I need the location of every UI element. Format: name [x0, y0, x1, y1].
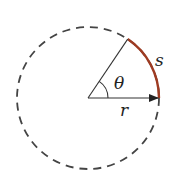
angle-arc-icon — [99, 81, 108, 98]
arc-length-diagram: θ s r — [0, 0, 172, 179]
theta-label: θ — [114, 73, 124, 93]
diagram-canvas: θ s r — [0, 0, 172, 179]
arc-s-label: s — [155, 50, 164, 70]
radius-r-label: r — [120, 100, 129, 120]
